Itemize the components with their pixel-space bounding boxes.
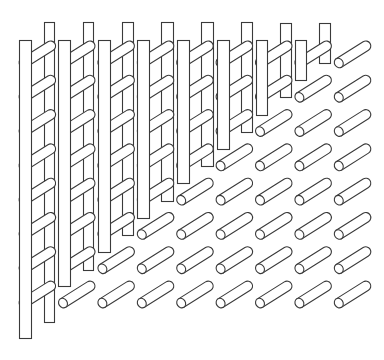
cylinder <box>293 142 333 172</box>
front-bar-1 <box>59 41 71 287</box>
cylinder <box>333 245 373 275</box>
ladder-cylinder-figure <box>0 0 384 360</box>
cylinder <box>254 142 294 172</box>
cylinder <box>333 211 373 241</box>
back-bar-0 <box>45 23 55 323</box>
cylinder <box>333 73 373 103</box>
cylinder <box>254 176 294 206</box>
cylinder <box>293 211 333 241</box>
cylinder <box>293 108 333 138</box>
cylinder <box>175 211 215 241</box>
cylinder <box>254 245 294 275</box>
cylinder <box>214 245 254 275</box>
front-bar-3 <box>138 41 150 219</box>
front-bar-7 <box>296 41 307 81</box>
cylinder <box>214 176 254 206</box>
cylinder <box>175 245 215 275</box>
cylinder <box>136 279 176 309</box>
front-bar-5 <box>218 41 230 150</box>
cylinder <box>333 142 373 172</box>
cylinder <box>214 279 254 309</box>
cylinder <box>333 176 373 206</box>
cylinder <box>136 245 176 275</box>
cylinder <box>333 108 373 138</box>
cylinder <box>333 279 373 309</box>
front-bar-2 <box>99 41 111 253</box>
cylinder <box>293 176 333 206</box>
cylinder <box>293 245 333 275</box>
front-bar-0 <box>20 41 32 339</box>
cylinder <box>175 279 215 309</box>
cylinder <box>293 279 333 309</box>
front-bar-6 <box>257 41 268 116</box>
cylinder <box>214 211 254 241</box>
figure-canvas <box>0 0 384 360</box>
cylinder <box>96 279 136 309</box>
cylinder <box>254 279 294 309</box>
front-bar-4 <box>178 41 190 184</box>
cylinder <box>254 211 294 241</box>
cylinder <box>333 39 373 69</box>
